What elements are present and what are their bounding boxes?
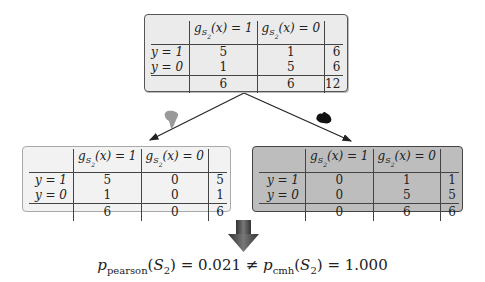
cell: 0 <box>306 188 374 204</box>
column-header: gS2(x) = 1 <box>306 149 374 173</box>
row-total: 5 <box>209 173 228 189</box>
row-label: y = 0 <box>29 188 74 204</box>
arrow-to-left <box>150 93 244 140</box>
corner-cell <box>29 149 74 173</box>
cell: 1 <box>74 188 142 204</box>
row-label: y = 1 <box>151 45 190 61</box>
row-total: 6 <box>325 45 344 61</box>
arrow-to-right <box>244 93 351 141</box>
row-total: 6 <box>325 60 344 76</box>
grand-total: 6 <box>209 204 228 222</box>
row-label: y = 0 <box>259 188 306 204</box>
cell: 0 <box>141 173 209 189</box>
total-header <box>209 149 228 173</box>
cell: 1 <box>257 45 324 61</box>
column-total: 6 <box>74 204 142 222</box>
cell: 5 <box>257 60 324 76</box>
p-value-formula: ppearson(S2) = 0.021 ≠ pcmh(S2) = 1.000 <box>0 256 485 276</box>
africa-icon <box>165 111 179 128</box>
cell: 5 <box>74 173 142 189</box>
row-label: y = 1 <box>259 173 306 189</box>
row-total: 5 <box>441 188 460 204</box>
africa-contingency-table: gS2(x) = 1 gS2(x) = 0 y = 1 5 0 5 y = 0 … <box>22 146 231 212</box>
column-total: 6 <box>257 76 324 94</box>
column-header: gS2(x) = 1 <box>74 149 142 173</box>
column-header: gS2(x) = 0 <box>373 149 441 173</box>
cell: 0 <box>306 173 374 189</box>
cell: 5 <box>373 188 441 204</box>
row-total: 1 <box>209 188 228 204</box>
grand-total: 6 <box>441 204 460 222</box>
row-total: 1 <box>441 173 460 189</box>
cell: 1 <box>373 173 441 189</box>
total-header <box>325 21 344 45</box>
column-header: gS2(x) = 1 <box>190 21 257 45</box>
column-header: gS2(x) = 0 <box>141 149 209 173</box>
column-total: 0 <box>306 204 374 222</box>
totals-label <box>151 76 190 94</box>
corner-cell <box>151 21 190 45</box>
cell: 5 <box>190 45 257 61</box>
cell: 1 <box>190 60 257 76</box>
column-total: 6 <box>373 204 441 222</box>
totals-label <box>259 204 306 222</box>
column-header: gS2(x) = 0 <box>257 21 324 45</box>
down-arrow-icon <box>228 220 259 252</box>
australia-icon <box>316 112 331 124</box>
column-total: 0 <box>141 204 209 222</box>
cell: 0 <box>141 188 209 204</box>
total-header <box>441 149 460 173</box>
row-label: y = 1 <box>29 173 74 189</box>
grand-total: 12 <box>325 76 344 94</box>
top-contingency-table: gS2(x) = 1 gS2(x) = 0 y = 1 5 1 6 y = 0 … <box>144 14 348 92</box>
row-label: y = 0 <box>151 60 190 76</box>
column-total: 6 <box>190 76 257 94</box>
australia-contingency-table: gS2(x) = 1 gS2(x) = 0 y = 1 0 1 1 y = 0 … <box>252 146 463 212</box>
totals-label <box>29 204 74 222</box>
corner-cell <box>259 149 306 173</box>
